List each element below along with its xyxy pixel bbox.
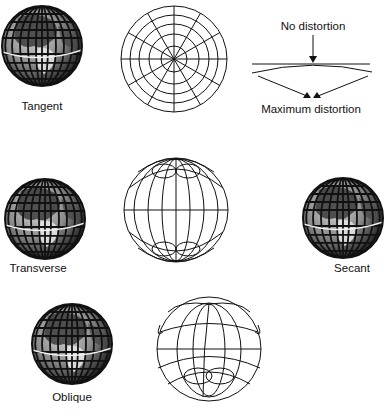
distortion-diagram: [252, 35, 372, 98]
maximum-distortion-label: Maximum distortion: [261, 103, 361, 115]
transverse-grid: [124, 158, 228, 262]
oblique-label: Oblique: [52, 391, 92, 403]
transverse-label: Transverse: [9, 262, 66, 274]
transverse-globe-icon: [5, 179, 85, 259]
diagram-canvas: [0, 0, 390, 418]
oblique-globe-icon: [32, 304, 112, 384]
secant-globe-icon: [303, 178, 383, 258]
oblique-grid: [157, 297, 261, 401]
tangent-globe-icon: [2, 6, 82, 86]
polar-azimuthal-grid: [121, 6, 227, 112]
tangent-label: Tangent: [22, 100, 63, 112]
secant-label: Secant: [334, 262, 370, 274]
no-distortion-label: No distortion: [281, 20, 346, 32]
